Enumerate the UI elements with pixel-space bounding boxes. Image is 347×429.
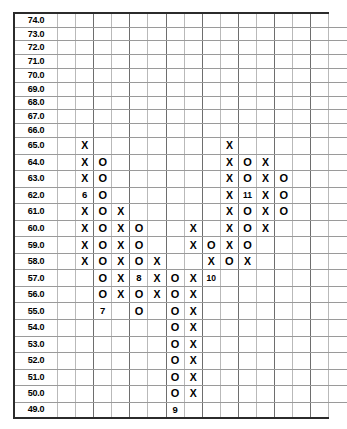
pnf-cell-blank xyxy=(112,69,129,82)
pnf-cell-blank xyxy=(257,14,274,27)
pnf-cell-empty xyxy=(220,303,238,320)
pnf-cell-empty xyxy=(202,110,220,124)
pnf-cell-empty xyxy=(202,27,220,41)
pnf-cell-blank xyxy=(203,155,220,171)
pnf-cell-blank xyxy=(112,55,129,68)
pnf-cell-empty xyxy=(329,14,347,27)
pnf-cell-blank xyxy=(329,14,346,27)
pnf-cell-empty xyxy=(166,187,184,204)
pnf-cell-empty xyxy=(94,402,112,417)
pnf-cell-empty xyxy=(293,55,311,69)
pnf-mark-o: O xyxy=(98,223,107,234)
price-axis-label: 52.0 xyxy=(15,353,58,370)
pnf-cell-empty xyxy=(202,124,220,138)
pnf-cell-blank xyxy=(185,41,202,54)
pnf-cell-blank xyxy=(221,41,238,54)
pnf-cell-blank xyxy=(148,303,165,319)
pnf-cell-empty xyxy=(58,253,76,270)
pnf-cell-empty xyxy=(184,187,202,204)
pnf-cell-blank xyxy=(76,353,93,369)
pnf-cell-blank xyxy=(239,83,256,96)
price-axis-label: 50.0 xyxy=(15,386,58,403)
pnf-cell-blank xyxy=(185,14,202,27)
pnf-cell-blank xyxy=(257,124,274,137)
pnf-cell-empty xyxy=(329,369,347,386)
pnf-cell-empty xyxy=(275,96,293,110)
pnf-cell-empty xyxy=(257,270,275,287)
pnf-mark-x: X xyxy=(81,140,88,151)
pnf-mark-o-cell: O xyxy=(94,204,112,221)
pnf-cell-blank xyxy=(293,386,310,402)
pnf-cell-empty xyxy=(257,14,275,27)
pnf-cell-empty xyxy=(311,124,329,138)
pnf-cell-blank xyxy=(76,386,93,402)
pnf-cell-empty xyxy=(329,41,347,55)
pnf-mark-x-cell: X xyxy=(112,220,130,237)
pnf-cell-empty xyxy=(112,27,130,41)
pnf-cell-blank xyxy=(275,155,292,171)
pnf-mark-x-cell: X xyxy=(76,237,94,254)
pnf-cell-blank xyxy=(185,403,202,417)
pnf-mark-o-cell: O xyxy=(166,386,184,403)
pnf-cell-empty xyxy=(311,253,329,270)
pnf-cell-blank xyxy=(185,124,202,137)
pnf-mark-x: X xyxy=(117,206,124,217)
pnf-mark-o-cell: O xyxy=(275,171,293,188)
pnf-cell-empty xyxy=(220,402,238,417)
pnf-cell-empty xyxy=(293,253,311,270)
pnf-cell-empty xyxy=(275,110,293,124)
pnf-mark-x-cell: X xyxy=(76,137,94,154)
pnf-cell-blank xyxy=(112,337,129,353)
pnf-cell-blank xyxy=(167,124,184,137)
pnf-mark-o: O xyxy=(98,273,107,284)
pnf-cell-blank xyxy=(329,97,346,110)
pnf-mark-o: O xyxy=(171,306,180,317)
pnf-cell-empty xyxy=(275,27,293,41)
price-axis-label: 63.0 xyxy=(15,171,58,188)
pnf-cell-empty xyxy=(166,154,184,171)
pnf-cell-empty xyxy=(58,41,76,55)
pnf-mark-o-cell: O xyxy=(94,286,112,303)
pnf-cell-empty xyxy=(293,124,311,138)
pnf-cell-empty xyxy=(329,171,347,188)
pnf-cell-empty xyxy=(257,286,275,303)
pnf-cell-blank xyxy=(221,403,238,417)
pnf-cell-empty xyxy=(202,220,220,237)
pnf-cell-empty xyxy=(130,369,148,386)
pnf-cell-blank xyxy=(275,370,292,386)
pnf-cell-blank xyxy=(221,337,238,353)
pnf-cell-blank xyxy=(311,155,328,171)
pnf-mark-x: X xyxy=(190,289,197,300)
pnf-cell-blank xyxy=(58,138,75,154)
pnf-mark-x-cell: X xyxy=(202,253,220,270)
pnf-cell-blank xyxy=(148,320,165,336)
pnf-cell-blank xyxy=(148,55,165,68)
pnf-cell-empty xyxy=(148,69,166,83)
pnf-cell-empty xyxy=(329,154,347,171)
pnf-cell-empty xyxy=(220,14,238,27)
pnf-cell-empty xyxy=(112,303,130,320)
pnf-cell-empty xyxy=(293,402,311,417)
pnf-cell-empty xyxy=(58,320,76,337)
pnf-cell-blank xyxy=(311,303,328,319)
pnf-cell-empty xyxy=(311,55,329,69)
price-axis-label: 59.0 xyxy=(15,237,58,254)
pnf-cell-empty xyxy=(275,82,293,96)
pnf-cell-empty xyxy=(329,353,347,370)
pnf-cell-blank xyxy=(167,69,184,82)
pnf-mark-x-cell: X xyxy=(220,204,238,221)
pnf-cell-blank xyxy=(148,83,165,96)
pnf-mark-x: X xyxy=(190,223,197,234)
pnf-cell-blank xyxy=(257,97,274,110)
pnf-cell-empty xyxy=(148,220,166,237)
pnf-mark-o-cell: O xyxy=(130,253,148,270)
pnf-mark-o-cell: O xyxy=(275,187,293,204)
pnf-cell-blank xyxy=(275,287,292,303)
pnf-cell-blank xyxy=(275,14,292,27)
pnf-cell-empty xyxy=(130,41,148,55)
pnf-cell-empty xyxy=(238,402,256,417)
pnf-mark-x: X xyxy=(81,240,88,251)
pnf-cell-blank xyxy=(311,188,328,204)
pnf-row: 70.0 xyxy=(15,69,347,83)
pnf-mark-x-cell: X xyxy=(184,270,202,287)
